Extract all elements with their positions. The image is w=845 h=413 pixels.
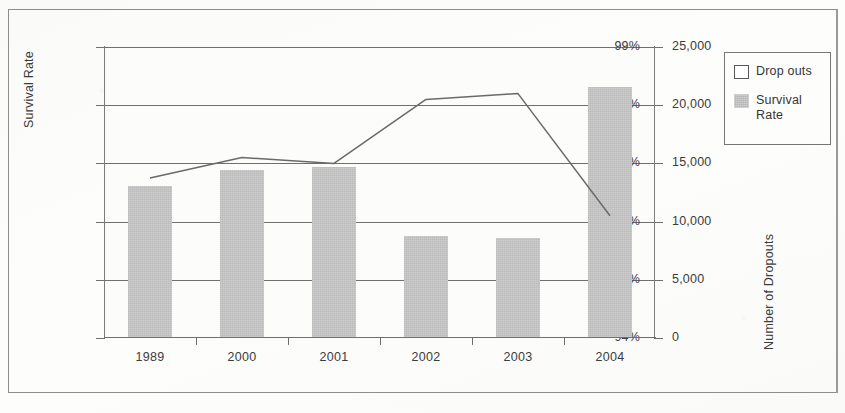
y-axis-right-tick-label: 10,000 bbox=[672, 214, 711, 228]
y-axis-right-tick-label: 15,000 bbox=[672, 155, 711, 169]
y-axis-right-tick-label: 20,000 bbox=[672, 97, 711, 111]
y-axis-right-tick-label: 0 bbox=[672, 330, 679, 344]
chart-screenshot: Survival Rate Number of Dropouts 94%95%9… bbox=[0, 0, 845, 413]
legend-label-drop-outs: Drop outs bbox=[756, 64, 812, 79]
legend-swatch-drop-outs-icon bbox=[734, 65, 749, 79]
x-axis-line bbox=[104, 337, 656, 338]
line-path bbox=[150, 94, 610, 216]
x-axis-tick-label: 2004 bbox=[580, 350, 640, 364]
chart-legend: Drop outs Survival Rate bbox=[724, 52, 831, 145]
y-axis-right-title: Number of Dropouts bbox=[762, 234, 776, 350]
y-axis-right-tick-label: 5,000 bbox=[672, 272, 704, 286]
x-axis-tick-label: 2001 bbox=[304, 350, 364, 364]
y-axis-right-tick-label: 25,000 bbox=[672, 39, 711, 53]
x-axis-tick-label: 1989 bbox=[120, 350, 180, 364]
y-axis-left-line bbox=[104, 46, 105, 338]
legend-item-survival-rate: Survival Rate bbox=[734, 93, 802, 123]
line-series-drop-outs bbox=[104, 47, 656, 338]
y-axis-right-line bbox=[654, 46, 655, 338]
y-axis-left-title: Survival Rate bbox=[22, 51, 36, 128]
x-axis-tick-label: 2000 bbox=[212, 350, 272, 364]
x-axis-tick-label: 2003 bbox=[488, 350, 548, 364]
legend-item-drop-outs: Drop outs bbox=[734, 64, 812, 79]
chart-border-right-edge bbox=[836, 9, 838, 393]
legend-label-survival-rate: Survival Rate bbox=[756, 93, 802, 123]
x-axis-tick-label: 2002 bbox=[396, 350, 456, 364]
legend-swatch-survival-rate-icon bbox=[734, 94, 749, 108]
plot-area: 94%95%96%97%98%99% 05,00010,00015,00020,… bbox=[104, 47, 656, 338]
